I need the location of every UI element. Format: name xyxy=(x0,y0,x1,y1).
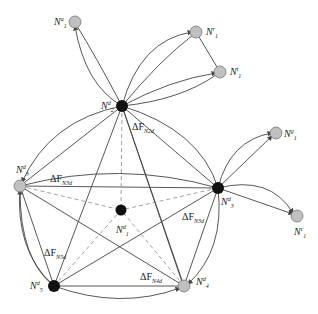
node-label-N1r: Nr1 xyxy=(206,26,218,39)
node-label-N1t: Nt1 xyxy=(230,66,241,79)
node-label-N2d: Nd2 xyxy=(101,100,114,113)
node-label-N3d: Nd3 xyxy=(221,196,234,209)
node-label-N3dL: Nd3 xyxy=(16,164,29,177)
delta-f-label: ΔFN3d xyxy=(182,212,204,224)
delta-f-label: ΔFN5d xyxy=(44,248,66,260)
network-diagram: Na1Nr1Nt1Nd2Nd3Nd1Nd3Ng1Nc1Nd5Nd4ΔFN2dΔF… xyxy=(0,0,318,314)
node-label-N1g: Ng1 xyxy=(284,128,297,141)
delta-f-label: ΔFN3d xyxy=(50,174,72,186)
node-label-N5d: Nd5 xyxy=(30,280,43,293)
node-label-N1a: Na1 xyxy=(54,16,67,29)
delta-f-label: ΔFN4d xyxy=(140,272,162,284)
diagram-edges xyxy=(0,0,318,314)
node-label-N4d: Nd4 xyxy=(196,276,209,289)
node-label-N1d: Nd1 xyxy=(116,224,129,237)
delta-f-label: ΔFN2d xyxy=(132,122,154,134)
node-label-N1c: Nc1 xyxy=(294,226,306,239)
